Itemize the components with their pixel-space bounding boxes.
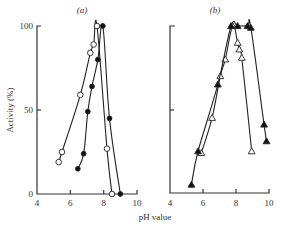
panel-a-plot bbox=[56, 20, 123, 197]
open-triangle-marker bbox=[234, 39, 241, 45]
series-line bbox=[191, 19, 266, 184]
filled-triangle-marker bbox=[263, 138, 270, 144]
filled-circle-marker bbox=[100, 24, 105, 29]
open-circle-marker bbox=[91, 42, 97, 48]
open-circle-marker bbox=[104, 146, 110, 152]
open-circle-marker bbox=[78, 92, 84, 98]
series-line bbox=[59, 20, 112, 194]
filled-circle-marker bbox=[118, 192, 123, 197]
open-triangle-marker bbox=[248, 148, 255, 154]
filled-triangle-marker bbox=[214, 81, 221, 87]
open-triangle-marker bbox=[209, 114, 216, 120]
y-tick-0: 0 bbox=[29, 189, 34, 199]
b-x-tick-6: 6 bbox=[201, 198, 206, 208]
filled-circle-marker bbox=[85, 109, 90, 114]
activity-ph-figure: (a) 100 50 0 4 6 8 10 Activity (%) (b) 4… bbox=[0, 0, 283, 232]
b-x-tick-8: 8 bbox=[234, 198, 239, 208]
open-circle-marker bbox=[59, 149, 65, 155]
a-x-tick-8: 8 bbox=[101, 198, 106, 208]
a-x-tick-6: 6 bbox=[68, 198, 73, 208]
filled-circle-marker bbox=[90, 84, 95, 89]
open-triangle-marker bbox=[236, 46, 243, 52]
y-tick-50: 50 bbox=[24, 105, 34, 115]
filled-triangle-marker bbox=[261, 121, 268, 127]
open-triangle-marker bbox=[238, 54, 245, 60]
panel-b-plot bbox=[188, 19, 270, 187]
filled-circle-marker bbox=[75, 166, 80, 171]
filled-circle-marker bbox=[95, 57, 100, 62]
open-circle-marker bbox=[88, 50, 94, 56]
b-x-tick-4: 4 bbox=[168, 198, 173, 208]
filled-circle-marker bbox=[107, 116, 112, 121]
open-circle-marker bbox=[56, 159, 62, 165]
y-axis-label: Activity (%) bbox=[5, 87, 15, 132]
panel-b-label: (b) bbox=[210, 5, 221, 15]
series-line bbox=[78, 24, 121, 194]
b-x-tick-10: 10 bbox=[265, 198, 275, 208]
y-tick-100: 100 bbox=[20, 21, 34, 31]
a-x-tick-10: 10 bbox=[133, 198, 143, 208]
filled-circle-marker bbox=[81, 151, 86, 156]
open-circle-marker bbox=[94, 23, 100, 29]
open-circle-marker bbox=[109, 191, 115, 197]
panel-a-label: (a) bbox=[77, 5, 88, 15]
x-axis-label: pH value bbox=[139, 212, 172, 222]
filled-triangle-marker bbox=[188, 181, 195, 187]
a-x-tick-4: 4 bbox=[35, 198, 40, 208]
